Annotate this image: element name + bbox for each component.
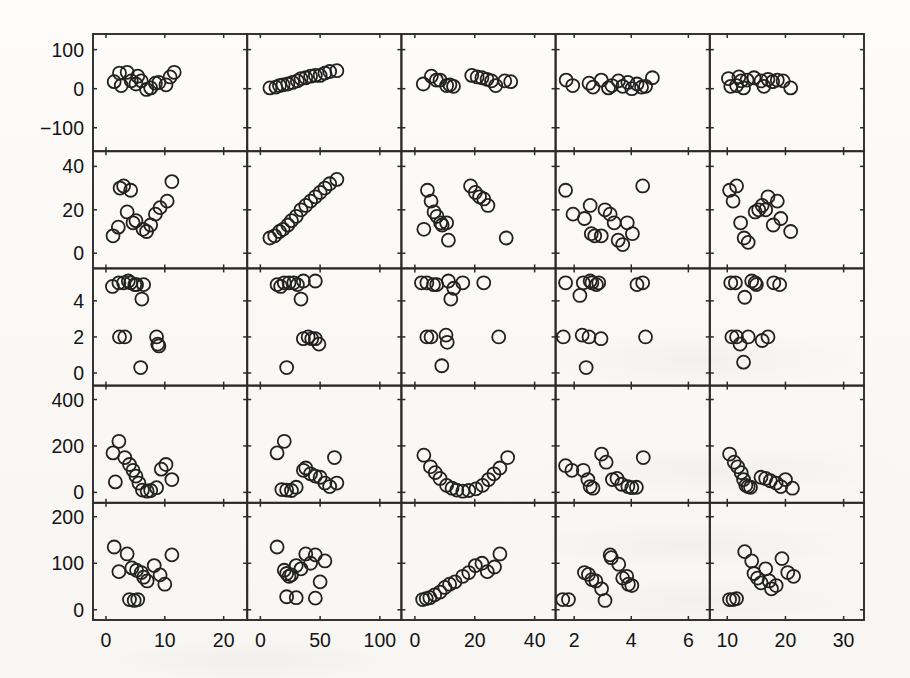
points-r2-c1 [271, 275, 326, 375]
y-tick-label-r1-2: 0 [73, 242, 84, 264]
panel-frame [247, 151, 401, 268]
panel-frame [556, 34, 710, 151]
panel-r3-c1 [247, 386, 401, 503]
y-tick-label-r1-0: 40 [62, 155, 84, 177]
data-point-3 [584, 199, 597, 212]
y-tick-label-r4-0: 200 [51, 506, 84, 528]
y-tick-label-r0-2: −100 [40, 117, 84, 139]
panel-r0-c1 [247, 34, 401, 151]
x-tick-label-c0-0: 0 [101, 629, 112, 651]
data-point-14 [134, 361, 147, 374]
x-tick-label-c4-1: 20 [775, 629, 797, 651]
data-point-14 [501, 451, 514, 464]
panel-r0-c2 [401, 34, 555, 151]
x-tick-label-c3-2: 6 [683, 629, 694, 651]
x-tick-label-c4-2: 30 [833, 629, 855, 651]
points-r2-c0 [106, 275, 166, 375]
panel-frame [401, 34, 555, 151]
y-tick-label-r2-0: 4 [73, 290, 84, 312]
points-r1-c1 [263, 173, 343, 245]
data-point-14 [165, 473, 178, 486]
data-point-14 [636, 179, 649, 192]
data-point-14 [165, 175, 178, 188]
points-r1-c3 [559, 179, 649, 251]
data-point-10 [737, 356, 750, 369]
points-r1-c2 [417, 179, 512, 246]
points-r3-c4 [723, 448, 799, 495]
panel-r2-c3 [556, 268, 710, 385]
panel-r3-c2 [401, 386, 555, 503]
panel-r0-c0 [93, 34, 247, 151]
points-r0-c0 [108, 66, 181, 96]
points-r0-c4 [722, 70, 797, 94]
y-tick-label-r1-1: 20 [62, 199, 84, 221]
x-tick-label-c2-0: 0 [409, 629, 420, 651]
y-tick-label-r2-1: 2 [73, 326, 84, 348]
data-point-11 [318, 554, 331, 567]
panel-r0-c3 [556, 34, 710, 151]
data-point-6 [573, 289, 586, 302]
points-r4-c2 [416, 547, 506, 606]
data-point-0 [271, 540, 284, 553]
points-r2-c4 [724, 275, 786, 369]
panel-frame [247, 503, 401, 620]
points-r3-c3 [559, 448, 650, 495]
data-point-1 [278, 435, 291, 448]
data-point-8 [759, 562, 772, 575]
panel-frame [93, 34, 247, 151]
data-point-14 [165, 548, 178, 561]
points-r1-c4 [723, 179, 797, 248]
panel-frame [93, 268, 247, 385]
data-point-14 [784, 81, 797, 94]
x-tick-label-c1-1: 50 [309, 629, 331, 651]
y-tick-label-r2-2: 0 [73, 362, 84, 384]
y-tick-label-r3-1: 200 [51, 435, 84, 457]
panel-r1-c0 [93, 151, 247, 268]
points-r4-c1 [271, 540, 332, 604]
y-tick-label-r4-2: 0 [73, 599, 84, 621]
points-r3-c0 [107, 435, 179, 498]
y-tick-label-r0-1: 0 [73, 78, 84, 100]
data-point-14 [500, 232, 513, 245]
points-r2-c2 [415, 275, 505, 373]
points-r0-c3 [560, 71, 659, 95]
data-point-14 [646, 71, 659, 84]
data-point-11 [580, 361, 593, 374]
data-point-1 [112, 435, 125, 448]
data-point-6 [137, 571, 150, 584]
x-tick-label-c1-2: 100 [364, 629, 397, 651]
data-point-0 [417, 223, 430, 236]
data-point-14 [492, 330, 505, 343]
points-r3-c2 [417, 449, 514, 498]
data-point-12 [775, 552, 788, 565]
points-r0-c2 [417, 69, 517, 93]
data-point-14 [280, 361, 293, 374]
data-point-13 [626, 227, 639, 240]
data-point-7 [599, 594, 612, 607]
panel-r1-c2 [401, 151, 555, 268]
panel-frame [401, 151, 555, 268]
points-r4-c0 [108, 540, 179, 606]
data-point-2 [121, 547, 134, 560]
data-point-3 [734, 216, 747, 229]
data-point-0 [559, 184, 572, 197]
data-point-14 [784, 225, 797, 238]
data-point-13 [328, 451, 341, 464]
points-r3-c1 [271, 435, 344, 497]
data-point-4 [745, 554, 758, 567]
panel-frame [710, 151, 864, 268]
x-tick-label-c3-1: 4 [626, 629, 637, 651]
data-point-8 [442, 234, 455, 247]
points-r0-c1 [263, 64, 343, 94]
panel-r4-c3 [556, 503, 710, 620]
data-point-0 [417, 78, 430, 91]
panel-r4-c1 [247, 503, 401, 620]
x-tick-label-c2-2: 40 [524, 629, 546, 651]
panel-r1-c4 [710, 151, 864, 268]
panel-frame [556, 503, 710, 620]
data-point-14 [639, 330, 652, 343]
data-point-2 [109, 475, 122, 488]
data-point-2 [583, 77, 596, 90]
data-point-0 [271, 446, 284, 459]
y-tick-label-r4-1: 100 [51, 552, 84, 574]
